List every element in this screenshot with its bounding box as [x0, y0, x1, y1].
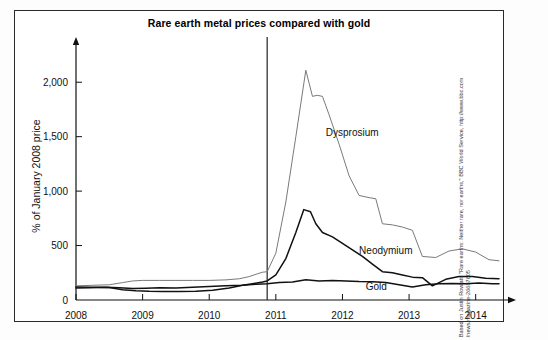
- y-tick-label: 2,000: [43, 77, 68, 88]
- y-tick-label: 1,000: [43, 186, 68, 197]
- figure-container: Rare earth metal prices compared with go…: [0, 0, 548, 340]
- series-line-neodymium: [76, 210, 499, 292]
- x-tick-label: 2010: [198, 310, 221, 321]
- credit-line-2: /news/magazine-26687605: [465, 7, 472, 337]
- series-layer: [76, 70, 499, 291]
- y-tick-label: 500: [51, 240, 68, 251]
- axis-layer: 05001,0001,5002,000200820092010201120122…: [43, 37, 516, 321]
- source-credit: Based on Justin Rowlatt, "Rare earths: N…: [458, 7, 472, 337]
- y-tick-label: 1,500: [43, 131, 68, 142]
- x-tick-label: 2009: [131, 310, 154, 321]
- y-axis-arrow: [73, 37, 79, 45]
- x-tick-label: 2008: [65, 310, 88, 321]
- series-line-gold: [76, 280, 499, 289]
- annotation-layer: DysprosiumNeodymiumGold: [326, 127, 413, 292]
- x-tick-label: 2013: [398, 310, 421, 321]
- series-label-dysprosium: Dysprosium: [326, 127, 379, 138]
- x-tick-label: 2011: [265, 310, 287, 321]
- x-axis-arrow: [508, 297, 516, 303]
- series-label-neodymium: Neodymium: [359, 245, 412, 256]
- x-tick-label: 2012: [331, 310, 354, 321]
- credit-line-1: Based on Justin Rowlatt, "Rare earths: N…: [458, 77, 464, 337]
- series-label-gold: Gold: [366, 281, 387, 292]
- y-tick-label: 0: [62, 295, 68, 306]
